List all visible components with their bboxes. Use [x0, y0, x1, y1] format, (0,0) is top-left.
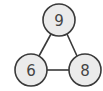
node-9: 9	[43, 4, 75, 36]
node-9-label: 9	[54, 12, 64, 30]
edge-9-6	[39, 34, 51, 56]
graph-diagram: 9 6 8	[0, 0, 103, 91]
node-8-label: 8	[80, 62, 90, 80]
node-6-label: 6	[26, 62, 36, 80]
node-6: 6	[15, 54, 47, 86]
node-8: 8	[69, 54, 101, 86]
edge-9-8	[67, 34, 77, 56]
